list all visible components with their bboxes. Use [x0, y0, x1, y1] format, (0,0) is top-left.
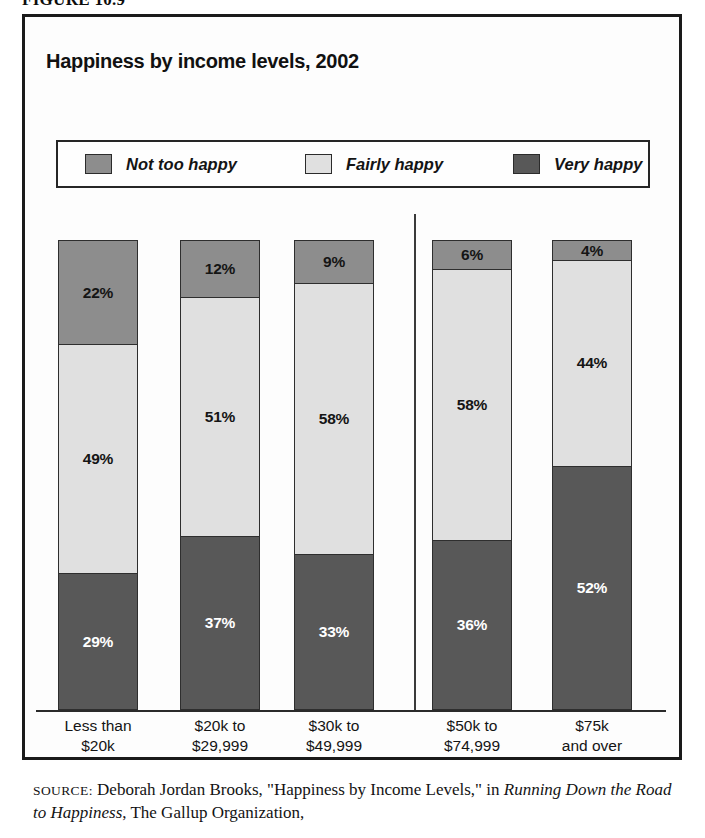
source-text-part2: , The Gallup Organization, — [122, 803, 304, 822]
legend-label-very-happy: Very happy — [554, 155, 642, 174]
legend-swatch-fairly-happy — [305, 154, 332, 174]
bar-segment-label: 12% — [205, 261, 235, 277]
bar-segment-fairly-happy: 49% — [59, 345, 137, 574]
bar-segment-label: 22% — [83, 285, 113, 301]
legend-swatch-not-too-happy — [85, 154, 112, 174]
bar-segment-label: 4% — [581, 243, 603, 259]
legend-label-not-too-happy: Not too happy — [126, 155, 237, 174]
category-label-line-1: $20k to — [195, 717, 246, 734]
bar-segment-very-happy: 29% — [59, 574, 137, 709]
bar-segment-fairly-happy: 58% — [295, 284, 373, 555]
category-label-line-2: $74,999 — [410, 736, 534, 756]
stacked-bar: 9%58%33% — [294, 240, 374, 710]
bar-segment-label: 36% — [457, 617, 487, 633]
bar-segment-label: 49% — [83, 451, 113, 467]
bar-segment-not-too-happy: 9% — [295, 241, 373, 284]
legend-item-fairly-happy: Fairly happy — [305, 142, 443, 186]
legend-swatch-very-happy — [513, 154, 540, 174]
bar-segment-label: 44% — [577, 355, 607, 371]
x-axis-category-label: $75kand over — [530, 716, 654, 755]
stacked-bar: 12%51%37% — [180, 240, 260, 710]
bar-segment-very-happy: 36% — [433, 541, 511, 709]
bar-segment-fairly-happy: 58% — [433, 270, 511, 541]
category-label-line-2: $29,999 — [158, 736, 282, 756]
x-axis-category-label: Less than$20k — [36, 716, 160, 755]
category-label-line-2: $49,999 — [272, 736, 396, 756]
bar-segment-fairly-happy: 44% — [553, 261, 631, 467]
category-label-line-2: $20k — [36, 736, 160, 756]
bar-segment-fairly-happy: 51% — [181, 298, 259, 537]
plot-area: 22%49%29%Less than$20k12%51%37%$20k to$2… — [22, 214, 682, 714]
stacked-bar: 6%58%36% — [432, 240, 512, 710]
category-label-line-1: $50k to — [447, 717, 498, 734]
legend-label-fairly-happy: Fairly happy — [346, 155, 443, 174]
bar-segment-label: 33% — [319, 624, 349, 640]
bar-segment-label: 29% — [83, 634, 113, 650]
bar-segment-not-too-happy: 4% — [553, 241, 631, 261]
x-axis-category-label: $50k to$74,999 — [410, 716, 534, 755]
source-text-part1: Deborah Jordan Brooks, "Happiness by Inc… — [93, 780, 504, 799]
stacked-bar: 4%44%52% — [552, 240, 632, 710]
x-axis-category-label: $20k to$29,999 — [158, 716, 282, 755]
bar-segment-very-happy: 37% — [181, 537, 259, 709]
chart-legend: Not too happy Fairly happy Very happy — [56, 140, 650, 188]
bar-segment-label: 37% — [205, 615, 235, 631]
group-divider-line — [414, 214, 416, 710]
bar-segment-not-too-happy: 22% — [59, 241, 137, 345]
bar-segment-label: 58% — [457, 397, 487, 413]
legend-item-very-happy: Very happy — [513, 142, 642, 186]
legend-item-not-too-happy: Not too happy — [85, 142, 237, 186]
stacked-bar: 22%49%29% — [58, 240, 138, 710]
bar-segment-not-too-happy: 12% — [181, 241, 259, 298]
bar-segment-label: 51% — [205, 409, 235, 425]
bar-segment-not-too-happy: 6% — [433, 241, 511, 270]
bar-segment-label: 58% — [319, 411, 349, 427]
bar-segment-very-happy: 52% — [553, 467, 631, 709]
figure-caption: FIGURE 10.9 — [22, 0, 125, 10]
bar-segment-very-happy: 33% — [295, 555, 373, 709]
category-label-line-2: and over — [530, 736, 654, 756]
source-prefix: SOURCE: — [33, 783, 93, 798]
bar-segment-label: 52% — [577, 580, 607, 596]
category-label-line-1: $75k — [575, 717, 609, 734]
category-label-line-1: $30k to — [309, 717, 360, 734]
x-axis-line — [36, 710, 666, 712]
category-label-line-1: Less than — [64, 717, 131, 734]
bar-segment-label: 6% — [461, 247, 483, 263]
source-note: SOURCE: Deborah Jordan Brooks, "Happines… — [33, 778, 683, 825]
bar-segment-label: 9% — [323, 254, 345, 270]
chart-title: Happiness by income levels, 2002 — [46, 50, 359, 73]
x-axis-category-label: $30k to$49,999 — [272, 716, 396, 755]
